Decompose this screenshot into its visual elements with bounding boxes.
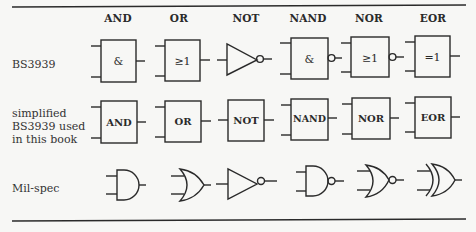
bs3939-nand-symbol: &	[305, 53, 315, 66]
milspec-nand-gate	[296, 166, 344, 196]
bs3939-nor-symbol: ≥1	[362, 52, 378, 65]
milspec-eor-gate	[417, 164, 462, 196]
milspec-nor-gate	[357, 165, 404, 197]
top-rule	[12, 5, 466, 7]
simplified-nand-label: NAND	[293, 113, 326, 124]
gate-diagram: & ≥1 & ≥1 =1 AND OR NOT NAND NOR EOR	[0, 0, 476, 232]
bs3939-and-symbol: &	[114, 55, 124, 68]
simplified-and-label: AND	[105, 117, 132, 128]
bs3939-not-gate	[217, 44, 272, 75]
bottom-rule	[12, 219, 466, 221]
bs3939-or-symbol: ≥1	[174, 55, 190, 68]
simplified-eor-label: EOR	[421, 112, 446, 123]
simplified-or-label: OR	[174, 116, 192, 127]
simplified-not-label: NOT	[233, 115, 259, 126]
simplified-nor-label: NOR	[358, 113, 385, 124]
milspec-or-gate	[171, 169, 211, 201]
milspec-and-gate	[106, 170, 146, 200]
milspec-not-gate	[216, 169, 277, 199]
bs3939-eor-symbol: =1	[424, 51, 440, 64]
